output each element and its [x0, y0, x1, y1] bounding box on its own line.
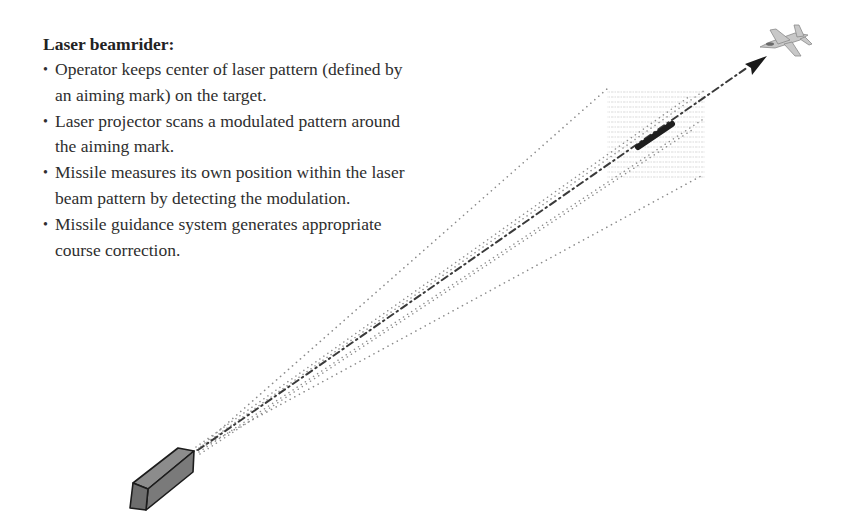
arrowhead-icon — [745, 56, 767, 75]
bullet-marker: • — [43, 57, 48, 83]
description-text: Laser beamrider: • Operator keeps center… — [43, 31, 423, 263]
bullet-item: • Operator keeps center of laser pattern… — [43, 57, 423, 109]
bullet-item: • Missile guidance system generates appr… — [43, 212, 423, 264]
bullet-list: • Operator keeps center of laser pattern… — [43, 57, 423, 263]
bullet-text: Laser projector scans a modulated patter… — [55, 111, 400, 157]
bullet-item: • Laser projector scans a modulated patt… — [43, 109, 423, 161]
bullet-text: Missile guidance system generates approp… — [55, 214, 382, 260]
laser-projector-icon — [130, 448, 194, 510]
bullet-marker: • — [43, 109, 48, 135]
bullet-marker: • — [43, 160, 48, 186]
target-aircraft-icon — [760, 25, 812, 56]
bullet-text: Operator keeps center of laser pattern (… — [55, 59, 402, 105]
beamrider-figure: Laser beamrider: • Operator keeps center… — [0, 0, 850, 523]
bullet-text: Missile measures its own position within… — [55, 162, 404, 208]
bullet-item: • Missile measures its own position with… — [43, 160, 423, 212]
bullet-marker: • — [43, 212, 48, 238]
figure-title: Laser beamrider: — [43, 31, 423, 57]
